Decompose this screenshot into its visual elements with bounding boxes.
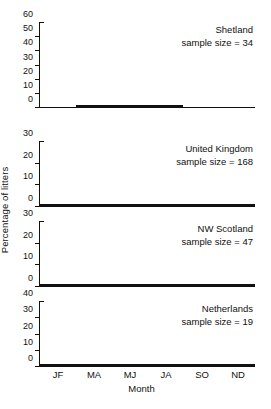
y-tick-label: 60: [23, 10, 33, 19]
y-tick-label: 40: [23, 289, 33, 298]
x-axis-title: Month: [0, 383, 271, 394]
y-tick: [35, 107, 39, 108]
panel-netherlands: 010203040Netherlandssample size = 19: [39, 301, 255, 367]
plot-area: 0102030United Kingdomsample size = 168: [39, 141, 255, 207]
y-tick-label: 30: [23, 52, 33, 61]
x-axis-title-text: Month: [128, 383, 154, 394]
x-tick-label-ja: JA: [148, 369, 184, 381]
y-tick-label: 20: [23, 150, 33, 159]
x-tick-label-nd: ND: [220, 369, 256, 381]
panel-united-kingdom: 0102030United Kingdomsample size = 168: [39, 141, 255, 207]
plot-area: 0102030NW Scotlandsample size = 47: [39, 221, 255, 287]
y-axis-line: [39, 301, 40, 367]
y-tick: [35, 206, 39, 207]
y-tick: [35, 184, 39, 185]
y-tick: [35, 366, 39, 367]
figure-bar-chart-panels: Percentage of litters 0102030405060Shetl…: [0, 0, 271, 409]
y-tick: [35, 334, 39, 335]
panel-annotation: NW Scotlandsample size = 47: [181, 223, 253, 248]
y-tick-label: 0: [28, 194, 33, 203]
y-tick: [39, 301, 44, 302]
y-tick: [35, 163, 39, 164]
y-tick-label: 30: [23, 209, 33, 218]
panel-annotation: Shetlandsample size = 34: [181, 24, 253, 49]
y-tick: [39, 22, 44, 23]
y-tick-label: 0: [28, 354, 33, 363]
panel-annotation: Netherlandssample size = 19: [181, 303, 253, 328]
y-axis-title-text: Percentage of litters: [0, 120, 10, 300]
y-tick-label: 0: [28, 95, 33, 104]
panel-region-label: Netherlands: [181, 303, 253, 316]
x-tick-label-ma: MA: [76, 369, 112, 381]
y-tick: [35, 79, 39, 80]
panel-sample-size-label: sample size = 47: [181, 236, 253, 249]
y-tick: [39, 141, 44, 142]
y-tick: [35, 286, 39, 287]
y-tick-label: 10: [23, 80, 33, 89]
x-tick-label-jf: JF: [40, 369, 76, 381]
y-tick: [35, 36, 39, 37]
panel-sample-size-label: sample size = 19: [181, 316, 253, 329]
panel-region-label: United Kingdom: [176, 143, 253, 156]
y-tick: [35, 264, 39, 265]
y-tick-label: 0: [28, 274, 33, 283]
panel-region-label: Shetland: [181, 24, 253, 37]
y-tick-label: 50: [23, 24, 33, 33]
y-tick-label: 20: [23, 230, 33, 239]
panel-nw-scotland: 0102030NW Scotlandsample size = 47: [39, 221, 255, 287]
x-axis-line: [39, 286, 255, 287]
y-tick: [35, 50, 39, 51]
y-tick-label: 10: [23, 172, 33, 181]
y-tick-label: 20: [23, 321, 33, 330]
x-axis-line: [39, 366, 255, 367]
plot-area: 010203040Netherlandssample size = 19: [39, 301, 255, 367]
x-axis-line: [39, 206, 255, 207]
y-tick-label: 10: [23, 252, 33, 261]
panel-annotation: United Kingdomsample size = 168: [176, 143, 253, 168]
y-tick: [35, 65, 39, 66]
y-tick-label: 30: [23, 129, 33, 138]
panel-sample-size-label: sample size = 168: [176, 156, 253, 169]
panel-region-label: NW Scotland: [181, 223, 253, 236]
panel-sample-size-label: sample size = 34: [181, 37, 253, 50]
x-tick-label-so: SO: [184, 369, 220, 381]
y-tick: [35, 243, 39, 244]
y-axis-line: [39, 221, 40, 287]
y-tick-label: 30: [23, 305, 33, 314]
y-axis-line: [39, 22, 40, 108]
y-axis-line: [39, 141, 40, 207]
panel-shetland: 0102030405060Shetlandsample size = 34: [39, 22, 255, 108]
x-tick-label-mj: MJ: [112, 369, 148, 381]
y-tick-label: 10: [23, 337, 33, 346]
y-axis-title: Percentage of litters: [0, 0, 11, 120]
x-axis-tick-labels: JFMAMJJASOND: [40, 369, 256, 381]
y-tick: [39, 221, 44, 222]
y-tick-label: 40: [23, 38, 33, 47]
plot-area: 0102030405060Shetlandsample size = 34: [39, 22, 255, 108]
y-tick-label: 20: [23, 66, 33, 75]
x-axis-line: [39, 107, 255, 108]
y-tick: [35, 317, 39, 318]
y-tick: [35, 350, 39, 351]
y-tick: [35, 93, 39, 94]
